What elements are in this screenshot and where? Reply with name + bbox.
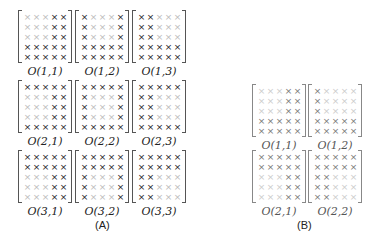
cross-mark: × <box>284 126 293 136</box>
cross-mark: × <box>80 152 89 162</box>
cross-mark: × <box>98 152 107 162</box>
cross-mark: × <box>349 162 358 172</box>
cross-mark: × <box>107 162 116 172</box>
right-bracket <box>182 80 186 133</box>
cross-mark: × <box>89 122 98 132</box>
cross-mark: × <box>293 126 302 136</box>
cross-mark: × <box>331 172 340 182</box>
cross-mark: × <box>146 182 155 192</box>
cross-mark: × <box>284 172 293 182</box>
cross-mark: × <box>32 182 41 192</box>
cross-mark: × <box>155 122 164 132</box>
cross-mark: × <box>98 192 107 202</box>
right-bracket <box>68 80 72 133</box>
cross-mark: × <box>266 126 275 136</box>
matrix---2-1-: ××××××××××××××××××××××××× <box>18 80 72 133</box>
matrix-grid: ××××××××××××××××××××××××× <box>80 12 125 62</box>
cross-mark: × <box>50 182 59 192</box>
cross-mark: × <box>349 116 358 126</box>
cross-mark: × <box>155 112 164 122</box>
cross-mark: × <box>116 122 125 132</box>
cross-mark: × <box>146 92 155 102</box>
cross-mark: × <box>50 122 59 132</box>
cross-mark: × <box>293 152 302 162</box>
cross-mark: × <box>116 32 125 42</box>
cross-mark: × <box>50 172 59 182</box>
cross-mark: × <box>41 32 50 42</box>
cross-mark: × <box>146 152 155 162</box>
cross-mark: × <box>137 152 146 162</box>
cross-mark: × <box>80 12 89 22</box>
cross-mark: × <box>50 22 59 32</box>
cross-mark: × <box>322 126 331 136</box>
cross-mark: × <box>137 82 146 92</box>
cross-mark: × <box>173 172 182 182</box>
cross-mark: × <box>155 102 164 112</box>
cross-mark: × <box>257 152 266 162</box>
cross-mark: × <box>266 172 275 182</box>
matrix-grid: ××××××××××××××××××××××××× <box>23 152 68 202</box>
cross-mark: × <box>257 172 266 182</box>
cross-mark: × <box>173 42 182 52</box>
cross-mark: × <box>59 92 68 102</box>
cross-mark: × <box>116 172 125 182</box>
cross-mark: × <box>80 102 89 112</box>
cross-mark: × <box>98 102 107 112</box>
cross-mark: × <box>164 12 173 22</box>
right-bracket <box>125 10 129 63</box>
cross-mark: × <box>32 162 41 172</box>
cross-mark: × <box>23 182 32 192</box>
cross-mark: × <box>293 116 302 126</box>
cross-mark: × <box>107 92 116 102</box>
matrix-grid: ××××××××××××××××××××××××× <box>23 12 68 62</box>
right-bracket <box>358 150 362 203</box>
cross-mark: × <box>257 96 266 106</box>
cross-mark: × <box>98 122 107 132</box>
cross-mark: × <box>23 22 32 32</box>
cross-mark: × <box>293 96 302 106</box>
cross-mark: × <box>275 152 284 162</box>
cross-mark: × <box>32 52 41 62</box>
cross-mark: × <box>146 102 155 112</box>
cross-mark: × <box>41 52 50 62</box>
matrix-grid: ××××××××××××××××××××××××× <box>257 86 302 136</box>
cross-mark: × <box>349 126 358 136</box>
matrix---1-2-: ××××××××××××××××××××××××× <box>75 10 129 63</box>
matrix-label: O(2,1) <box>252 205 306 218</box>
cross-mark: × <box>59 112 68 122</box>
matrix---2-2-: ××××××××××××××××××××××××× <box>308 150 362 203</box>
matrix---1-1-: ××××××××××××××××××××××××× <box>252 84 306 137</box>
cross-mark: × <box>155 192 164 202</box>
cross-mark: × <box>322 172 331 182</box>
matrix---2-1-: ××××××××××××××××××××××××× <box>252 150 306 203</box>
matrix---2-2-: ××××××××××××××××××××××××× <box>75 80 129 133</box>
cross-mark: × <box>331 86 340 96</box>
cross-mark: × <box>173 22 182 32</box>
cross-mark: × <box>23 122 32 132</box>
cross-mark: × <box>173 12 182 22</box>
cross-mark: × <box>155 32 164 42</box>
cross-mark: × <box>146 12 155 22</box>
cross-mark: × <box>41 82 50 92</box>
cross-mark: × <box>59 162 68 172</box>
matrix---1-3-: ××××××××××××××××××××××××× <box>132 10 186 63</box>
cross-mark: × <box>164 102 173 112</box>
cross-mark: × <box>340 182 349 192</box>
matrix---3-1-: ××××××××××××××××××××××××× <box>18 150 72 203</box>
matrix-grid: ××××××××××××××××××××××××× <box>80 152 125 202</box>
cross-mark: × <box>89 82 98 92</box>
cross-mark: × <box>164 92 173 102</box>
right-bracket <box>358 84 362 137</box>
cross-mark: × <box>116 82 125 92</box>
cross-mark: × <box>59 52 68 62</box>
cross-mark: × <box>293 192 302 202</box>
cross-mark: × <box>116 52 125 62</box>
cross-mark: × <box>137 42 146 52</box>
cross-mark: × <box>98 22 107 32</box>
cross-mark: × <box>116 102 125 112</box>
cross-mark: × <box>322 162 331 172</box>
cross-mark: × <box>89 22 98 32</box>
cross-mark: × <box>41 192 50 202</box>
cross-mark: × <box>284 106 293 116</box>
cross-mark: × <box>137 52 146 62</box>
